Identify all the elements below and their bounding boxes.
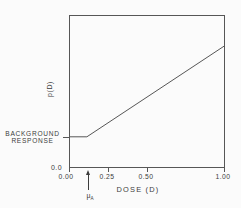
- x-tick-label-100: 1.00: [216, 173, 231, 180]
- background-response-label: BACKGROUND RESPONSE: [1, 130, 64, 145]
- x-tick-label-0: 0.00: [59, 173, 74, 180]
- x-tick-label-025: 0.25: [100, 173, 115, 180]
- x-tick-label-050: 0.50: [139, 173, 154, 180]
- y-axis-label: p(D): [46, 81, 53, 97]
- x-tick-050: [147, 168, 148, 172]
- x-tick-0: [69, 168, 70, 172]
- x-axis-label: DOSE (D): [117, 185, 160, 194]
- y-origin-label: 0.0: [51, 164, 62, 171]
- x-tick-025: [108, 168, 109, 172]
- threshold-subscript: A: [90, 196, 93, 201]
- plot-area: [69, 15, 225, 168]
- dose-response-curve: [70, 16, 224, 167]
- threshold-label: μA: [86, 192, 93, 201]
- x-tick-100: [224, 168, 225, 172]
- background-response-line2: RESPONSE: [1, 137, 64, 144]
- threshold-arrow-shaft: [88, 175, 89, 190]
- background-response-line1: BACKGROUND: [1, 130, 64, 137]
- background-level-tick: [63, 137, 69, 138]
- dose-response-figure: p(D) BACKGROUND RESPONSE 0.0 0.00 0.25 0…: [0, 0, 241, 208]
- dose-response-line: [70, 46, 224, 137]
